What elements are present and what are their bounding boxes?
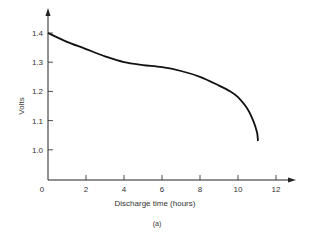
y-tick-label: 1.4 — [32, 29, 44, 38]
x-ticks: 024681012 — [40, 175, 281, 194]
y-axis-arrow-icon — [46, 8, 51, 16]
y-tick-label: 1.1 — [32, 117, 44, 126]
x-tick-label: 6 — [160, 185, 165, 194]
x-tick-label: 8 — [198, 185, 203, 194]
figure-caption: (a) — [153, 220, 162, 228]
x-tick-label: 10 — [234, 185, 243, 194]
y-axis-label: Volts — [17, 97, 26, 114]
x-tick-label: 4 — [122, 185, 127, 194]
discharge-curve — [48, 33, 258, 141]
x-tick-label: 2 — [84, 185, 89, 194]
axes — [46, 8, 297, 183]
y-tick-label: 1.0 — [32, 146, 44, 155]
y-ticks: 1.01.11.21.31.4 — [32, 29, 53, 155]
y-tick-label: 1.2 — [32, 87, 44, 96]
x-tick-label: 0 — [40, 185, 45, 194]
chart: 1.01.11.21.31.4 024681012 Volts Discharg… — [0, 0, 309, 235]
x-tick-label: 12 — [272, 185, 281, 194]
x-axis-arrow-icon — [288, 178, 296, 183]
x-axis-label: Discharge time (hours) — [115, 199, 196, 208]
y-tick-label: 1.3 — [32, 58, 44, 67]
